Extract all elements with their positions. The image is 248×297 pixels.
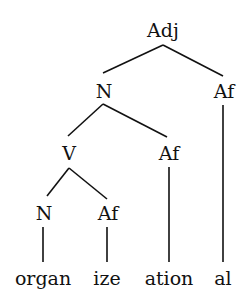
- node-v: V: [62, 144, 76, 163]
- morphology-tree: Adj N Af V Af N Af organ ize ation al: [0, 0, 248, 297]
- leaf-ize: ize: [93, 269, 120, 288]
- node-af-ation: Af: [159, 144, 179, 163]
- node-n-lower: N: [36, 204, 53, 223]
- tree-edges: [0, 0, 248, 297]
- node-adj: Adj: [147, 21, 179, 40]
- edge-v-af: [69, 168, 107, 199]
- leaf-ation: ation: [145, 269, 194, 288]
- edge-adj-af: [163, 45, 223, 76]
- edge-n-af: [103, 104, 167, 137]
- node-af-ize: Af: [98, 204, 118, 223]
- node-af-al: Af: [214, 82, 234, 101]
- leaf-organ: organ: [15, 269, 71, 288]
- leaf-al: al: [214, 269, 231, 288]
- edge-adj-n: [103, 45, 163, 73]
- edge-v-n: [47, 168, 69, 196]
- edge-n-v: [68, 104, 103, 136]
- node-n-upper: N: [96, 82, 113, 101]
